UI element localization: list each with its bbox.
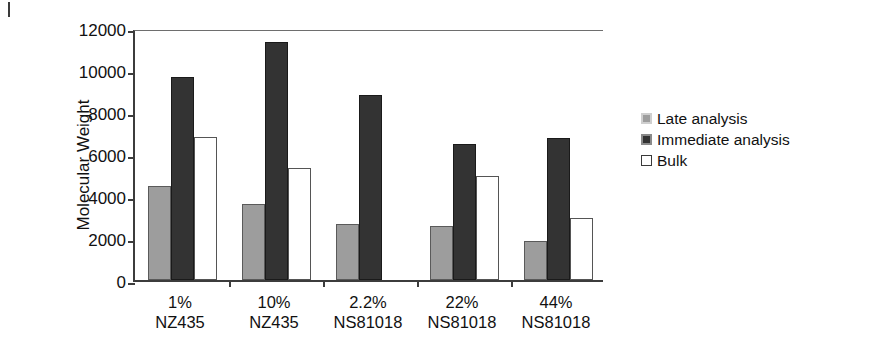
x-category-label-line2: NZ435 xyxy=(227,312,321,332)
y-tick-label: 6000 xyxy=(88,147,126,167)
bar xyxy=(288,168,311,280)
y-tick-mark xyxy=(128,283,135,285)
legend-item: Bulk xyxy=(641,150,790,171)
bar xyxy=(265,42,288,280)
x-category-label-line2: NZ435 xyxy=(133,312,227,332)
x-tick-mark xyxy=(511,280,513,287)
y-tick-mark xyxy=(128,241,135,243)
y-tick-label: 12000 xyxy=(79,21,126,41)
bar xyxy=(336,224,359,280)
x-category-label: 44%NS81018 xyxy=(509,292,603,332)
bar xyxy=(194,137,217,280)
legend-item-label: Late analysis xyxy=(657,110,747,128)
x-category-label-line2: NS81018 xyxy=(321,312,415,332)
x-category-label-line1: 22% xyxy=(415,292,509,312)
x-tick-mark xyxy=(417,280,419,287)
legend-swatch-icon xyxy=(641,113,652,124)
y-tick-mark xyxy=(128,199,135,201)
x-category-label: 2.2%NS81018 xyxy=(321,292,415,332)
x-category-label-line2: NS81018 xyxy=(415,312,509,332)
legend-item-label: Bulk xyxy=(657,152,687,170)
y-tick-mark xyxy=(128,157,135,159)
bar-group xyxy=(511,31,605,280)
bar xyxy=(453,144,476,281)
bar xyxy=(242,204,265,280)
x-category-label-line1: 2.2% xyxy=(321,292,415,312)
y-tick-label: 4000 xyxy=(88,189,126,209)
bar-group xyxy=(229,31,323,280)
plot-area: 020004000600080001000012000 xyxy=(133,30,603,282)
bar-group xyxy=(135,31,229,280)
bar xyxy=(570,218,593,280)
legend-swatch-icon xyxy=(641,134,652,145)
x-category-label-line1: 1% xyxy=(133,292,227,312)
x-category-label: 10%NZ435 xyxy=(227,292,321,332)
bar xyxy=(547,138,570,280)
y-tick-label: 2000 xyxy=(88,231,126,251)
x-category-label: 1%NZ435 xyxy=(133,292,227,332)
bar xyxy=(171,77,194,280)
legend-item: Late analysis xyxy=(641,108,790,129)
y-tick-label: 0 xyxy=(117,273,126,293)
x-category-label-line1: 10% xyxy=(227,292,321,312)
legend-item-label: Immediate analysis xyxy=(657,131,790,149)
y-tick-mark xyxy=(128,73,135,75)
bar-group xyxy=(323,31,417,280)
x-tick-mark xyxy=(323,280,325,287)
legend-item: Immediate analysis xyxy=(641,129,790,150)
y-tick-label: 10000 xyxy=(79,63,126,83)
bar xyxy=(359,95,382,280)
x-category-label: 22%NS81018 xyxy=(415,292,509,332)
bar-group xyxy=(417,31,511,280)
y-tick-label: 8000 xyxy=(88,105,126,125)
bar-chart-figure: Molecular Weight 02000400060008000100001… xyxy=(0,0,876,352)
chart-legend: Late analysisImmediate analysisBulk xyxy=(641,108,790,171)
bar xyxy=(148,186,171,281)
bar xyxy=(476,176,499,280)
x-tick-mark xyxy=(229,280,231,287)
legend-swatch-icon xyxy=(641,155,652,166)
x-category-label-line1: 44% xyxy=(509,292,603,312)
bar xyxy=(430,226,453,280)
bar xyxy=(524,241,547,280)
y-tick-mark xyxy=(128,115,135,117)
y-tick-mark xyxy=(128,31,135,33)
x-category-label-line2: NS81018 xyxy=(509,312,603,332)
